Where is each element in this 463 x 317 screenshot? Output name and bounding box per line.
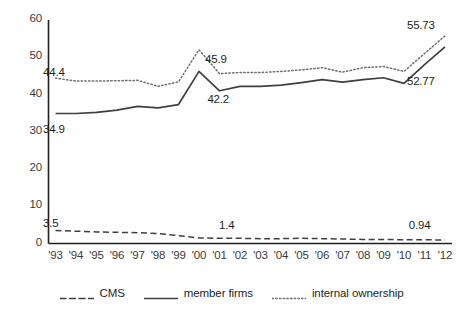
y-tick-label: 30 [16, 124, 42, 136]
line-chart: 6050403020100 '93'94'95'96'97'98'99'00'0… [0, 0, 463, 317]
x-tick-label: '06 [311, 249, 333, 261]
legend-item[interactable]: CMS [60, 287, 125, 299]
x-tick-label: '96 [106, 249, 128, 261]
x-tick-label: '98 [147, 249, 169, 261]
y-tick-label: 60 [16, 12, 42, 24]
annotation-label: 34.9 [43, 123, 65, 135]
chart-axes [49, 20, 453, 244]
annotation-label: 52.77 [407, 75, 435, 87]
x-tick-label: '04 [270, 249, 292, 261]
y-tick-label: 20 [16, 161, 42, 173]
legend-item-label: CMS [100, 287, 125, 299]
x-tick-label: '12 [434, 249, 456, 261]
x-tick-label: '94 [65, 249, 87, 261]
x-tick-label: '10 [393, 249, 415, 261]
annotation-label: 1.4 [219, 219, 234, 231]
x-tick-label: '09 [373, 249, 395, 261]
annotation-label: 0.94 [409, 219, 431, 231]
x-tick-label: '03 [250, 249, 272, 261]
x-tick-label: '99 [168, 249, 190, 261]
y-tick-label: 0 [16, 236, 42, 248]
annotation-label: 55.73 [407, 19, 435, 31]
x-tick-label: '97 [127, 249, 149, 261]
x-tick-label: '95 [86, 249, 108, 261]
annotation-label: 44.4 [43, 66, 65, 78]
y-tick-label: 10 [16, 198, 42, 210]
legend-item[interactable]: internal ownership [272, 287, 404, 299]
legend-item-label: member firms [184, 287, 253, 299]
x-tick-label: '07 [332, 249, 354, 261]
x-tick-label: '00 [188, 249, 210, 261]
y-tick-label: 50 [16, 49, 42, 61]
annotation-label: 3.5 [43, 217, 58, 229]
annotation-label: 45.9 [205, 53, 227, 65]
dotted-line-swatch [272, 289, 306, 298]
x-tick-label: '11 [414, 249, 436, 261]
y-tick-label: 40 [16, 87, 42, 99]
x-tick-label: '05 [291, 249, 313, 261]
x-tick-label: '01 [209, 249, 231, 261]
x-tick-label: '08 [352, 249, 374, 261]
chart-legend: CMSmember firmsinternal ownership [0, 287, 463, 299]
dashed-line-swatch [60, 289, 94, 298]
chart-series-group [56, 36, 446, 240]
annotation-label: 42.2 [207, 93, 229, 105]
x-tick-label: '02 [229, 249, 251, 261]
chart-plot-area [0, 0, 463, 317]
series-line-member-firms [56, 47, 446, 114]
legend-item[interactable]: member firms [144, 287, 253, 299]
solid-line-swatch [144, 289, 178, 298]
legend-item-label: internal ownership [312, 287, 404, 299]
x-tick-label: '93 [45, 249, 67, 261]
series-line-cms [56, 230, 446, 240]
